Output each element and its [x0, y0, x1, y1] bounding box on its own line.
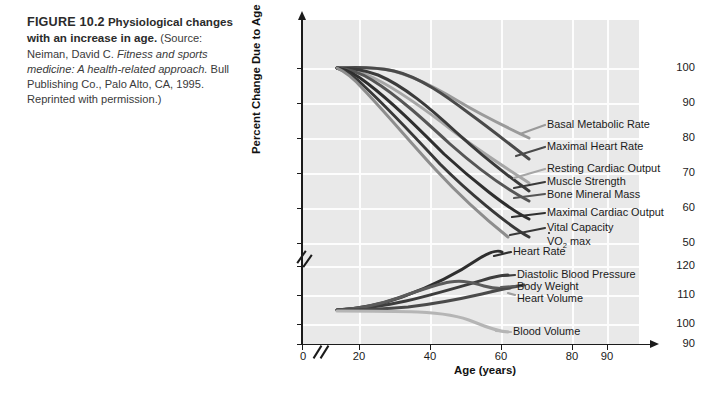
leader-body-weight: [501, 286, 515, 287]
chart-figure: 100 90 80 70 60 50 120 110 100 90 0 20 4…: [258, 6, 695, 389]
series-label-heart-volume: Heart Volume: [517, 293, 583, 304]
series-label-blood-volume: Blood Volume: [513, 326, 580, 337]
leader-diastolic-blood-pressure: [502, 275, 515, 276]
figure-caption: FIGURE 10.2 Physiological changes with a…: [27, 14, 242, 108]
figure-number: FIGURE 10.2: [27, 15, 105, 29]
series-label-resting-cardiac-output: Resting Cardiac Output: [547, 163, 660, 174]
series-label-diastolic-blood-pressure: Diastolic Blood Pressure: [517, 269, 636, 280]
series-label-vital-capacity: Vital Capacity: [547, 222, 613, 233]
series-label-body-weight: Body Weight: [517, 281, 579, 292]
leader-heart-volume: [508, 293, 515, 295]
series-label-bone-mineral-mass: Bone Mineral Mass: [547, 189, 640, 200]
vo2-suffix: max: [567, 235, 591, 247]
series-label-heart-rate: Heart Rate: [513, 246, 566, 257]
leader-resting-cardiac-output: [514, 169, 545, 178]
leader-blood-volume: [496, 331, 511, 332]
series-label-muscle-strength: Muscle Strength: [547, 176, 626, 187]
leader-basal-metabolic-rate: [520, 125, 545, 134]
series-label-maximal-heart-rate: Maximal Heart Rate: [547, 141, 643, 152]
series-label-basal-metabolic-rate: Basal Metabolic Rate: [547, 119, 650, 130]
curve-blood-volume: [337, 311, 508, 332]
series-label-maximal-cardiac-output: Maximal Cardiac Output: [547, 207, 664, 218]
